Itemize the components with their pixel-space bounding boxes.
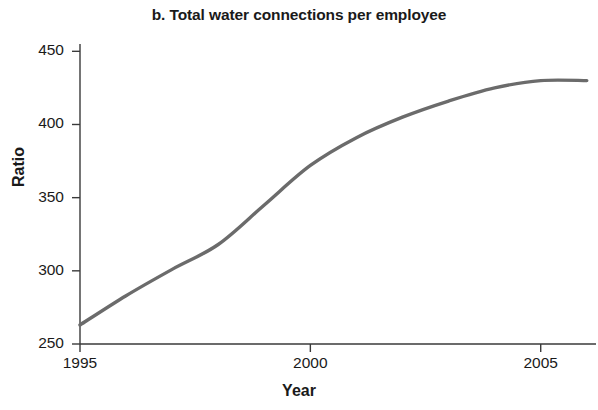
y-tick-label: 400 (18, 114, 64, 132)
y-tick-label: 300 (18, 261, 64, 279)
plot-area (0, 0, 598, 410)
x-tick-label: 2000 (280, 354, 340, 372)
x-tick-label: 2005 (511, 354, 571, 372)
y-tick-label: 450 (18, 41, 64, 59)
data-series-line (80, 80, 587, 325)
y-tick-label: 350 (18, 188, 64, 206)
x-tick-label: 1995 (50, 354, 110, 372)
axes (80, 44, 596, 344)
axis-ticks (72, 51, 541, 352)
chart-figure: b. Total water connections per employee … (0, 0, 598, 410)
y-tick-label: 250 (18, 334, 64, 352)
